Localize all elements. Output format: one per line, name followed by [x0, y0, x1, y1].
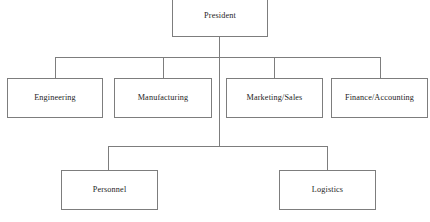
node-engineering[interactable]: Engineering [7, 78, 103, 118]
connector-stub-manufacturing [163, 57, 164, 79]
connector-stub-logistics [327, 146, 328, 171]
node-president[interactable]: President [172, 0, 268, 37]
node-manufacturing-label: Manufacturing [138, 94, 189, 102]
connector-president-spine [219, 37, 220, 147]
node-personnel-label: Personnel [93, 186, 127, 194]
connector-level3-bus [108, 146, 327, 147]
node-finance-accounting[interactable]: Finance/Accounting [331, 78, 428, 118]
node-engineering-label: Engineering [34, 94, 76, 102]
connector-level2-bus [55, 57, 381, 58]
connector-stub-finance-accounting [380, 57, 381, 79]
node-marketing-sales-label: Marketing/Sales [247, 94, 303, 102]
node-manufacturing[interactable]: Manufacturing [114, 78, 212, 118]
node-finance-accounting-label: Finance/Accounting [345, 94, 414, 102]
node-marketing-sales[interactable]: Marketing/Sales [226, 78, 323, 118]
node-personnel[interactable]: Personnel [61, 170, 158, 210]
node-logistics-label: Logistics [312, 186, 343, 194]
org-chart-canvas: President Engineering Manufacturing Mark… [0, 0, 430, 222]
connector-stub-marketing-sales [274, 57, 275, 79]
connector-stub-engineering [55, 57, 56, 79]
node-logistics[interactable]: Logistics [279, 170, 376, 210]
node-president-label: President [204, 12, 236, 20]
connector-stub-personnel [108, 146, 109, 171]
